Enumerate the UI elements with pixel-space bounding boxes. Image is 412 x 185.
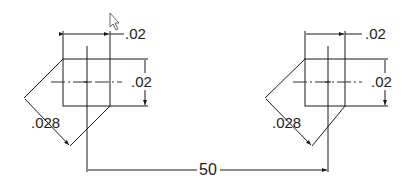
spacing-label[interactable]: 50 [199,161,217,179]
right-width-label[interactable]: .02 [365,25,386,42]
technical-drawing [0,0,412,185]
left-diag-ext-2 [70,106,110,146]
left-diagonal-label[interactable]: .028 [31,114,60,131]
right-diagonal-label[interactable]: .028 [272,114,301,131]
right-height-label[interactable]: .02 [371,73,392,90]
mouse-pointer-icon [110,13,119,30]
right-diag-ext-1 [265,59,305,98]
left-height-label[interactable]: .02 [131,73,152,90]
left-feature[interactable] [24,31,148,172]
left-width-label[interactable]: .02 [125,25,146,42]
right-feature[interactable] [265,31,388,172]
left-diag-ext-1 [24,59,63,98]
